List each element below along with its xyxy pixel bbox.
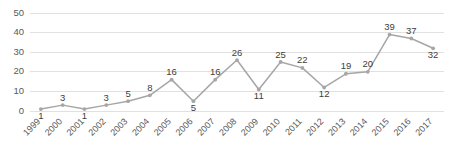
data-point-label: 26	[232, 47, 243, 58]
x-axis-tick-label: 2002	[86, 116, 107, 137]
data-point-label: 12	[319, 88, 330, 99]
x-axis-tick-label: 2013	[326, 116, 347, 137]
y-axis-tick-labels: 01020304050	[13, 7, 24, 116]
data-point-label: 25	[275, 49, 286, 60]
line-chart: 01020304050 1999200020012002200320042005…	[0, 0, 450, 150]
chart-canvas: 01020304050 1999200020012002200320042005…	[0, 0, 450, 150]
data-point-label: 20	[362, 58, 373, 69]
data-point-label: 1	[38, 110, 43, 121]
data-point-label: 16	[210, 66, 221, 77]
data-point-label: 39	[384, 21, 395, 32]
x-axis-tick-label: 2000	[43, 116, 64, 137]
series-marker	[148, 93, 152, 97]
series-marker	[104, 103, 108, 107]
gridlines-group	[30, 13, 444, 111]
y-axis-tick-label: 30	[13, 46, 24, 57]
data-point-label: 22	[297, 54, 308, 65]
x-axis-tick-label: 2005	[152, 116, 173, 137]
x-axis-tick-label: 2004	[130, 116, 151, 137]
x-axis-tick-label: 2011	[283, 116, 304, 137]
x-axis-tick-label: 2007	[195, 116, 216, 137]
x-axis-tick-label: 2006	[174, 116, 195, 137]
series-marker	[170, 78, 174, 82]
series-marker	[344, 72, 348, 76]
y-axis-tick-label: 0	[19, 105, 24, 116]
x-axis-tick-label: 2003	[108, 116, 129, 137]
data-point-label: 5	[125, 88, 130, 99]
series-marker	[300, 66, 304, 70]
data-point-label: 11	[254, 90, 264, 101]
series-marker	[388, 33, 392, 37]
y-axis-tick-label: 10	[13, 85, 24, 96]
series-marker	[366, 70, 370, 74]
data-point-label: 1	[82, 110, 87, 121]
series-marker	[61, 103, 65, 107]
data-point-label: 5	[191, 102, 196, 113]
x-axis-tick-label: 2008	[217, 116, 238, 137]
data-point-label: 32	[428, 49, 439, 60]
data-point-label: 3	[104, 92, 109, 103]
x-axis-tick-label: 2010	[261, 116, 282, 137]
data-point-label: 8	[147, 82, 152, 93]
data-point-label: 37	[406, 25, 417, 36]
series-marker	[235, 58, 239, 62]
data-point-labels: 1313581651626112522121920393732	[38, 21, 438, 120]
x-axis-tick-label: 2014	[348, 116, 369, 137]
y-axis-tick-label: 20	[13, 65, 24, 76]
x-axis-tick-label: 2009	[239, 116, 260, 137]
y-axis-tick-label: 50	[13, 7, 24, 18]
x-axis-tick-label: 2017	[413, 116, 434, 137]
series-marker	[409, 37, 413, 41]
data-point-label: 3	[60, 92, 65, 103]
data-point-label: 16	[166, 66, 177, 77]
series-marker	[279, 60, 283, 64]
x-axis-tick-label: 2015	[370, 116, 391, 137]
series-marker	[126, 99, 130, 103]
data-point-label: 19	[341, 60, 352, 71]
y-axis-tick-label: 40	[13, 26, 24, 37]
series-marker	[213, 78, 217, 82]
x-axis-tick-label: 2016	[391, 116, 412, 137]
x-axis-tick-label: 2012	[304, 116, 325, 137]
